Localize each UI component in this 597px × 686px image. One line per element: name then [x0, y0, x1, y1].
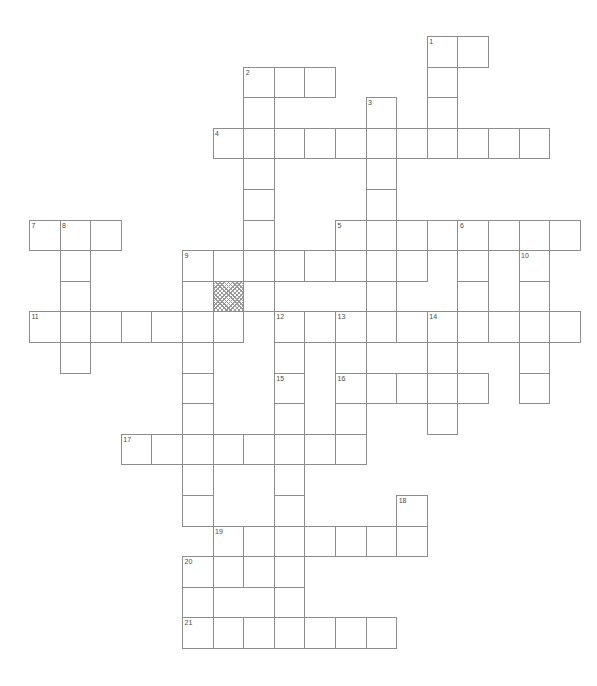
grid-cell[interactable] — [366, 373, 398, 405]
grid-cell[interactable] — [427, 128, 459, 160]
grid-cell[interactable] — [304, 526, 336, 558]
grid-cell[interactable] — [335, 617, 367, 649]
grid-cell[interactable] — [243, 526, 275, 558]
grid-cell[interactable]: 6 — [457, 220, 489, 252]
grid-cell[interactable] — [182, 464, 214, 496]
grid-cell[interactable] — [182, 373, 214, 405]
grid-cell[interactable] — [335, 128, 367, 160]
grid-cell[interactable] — [427, 373, 459, 405]
grid-cell[interactable] — [151, 434, 183, 466]
grid-cell[interactable] — [274, 617, 306, 649]
grid-cell[interactable] — [274, 434, 306, 466]
grid-cell[interactable] — [335, 342, 367, 374]
grid-cell[interactable] — [366, 526, 398, 558]
grid-cell[interactable] — [549, 311, 581, 343]
grid-cell[interactable] — [519, 128, 551, 160]
grid-cell[interactable] — [457, 250, 489, 282]
grid-cell[interactable] — [274, 128, 306, 160]
grid-cell[interactable] — [304, 128, 336, 160]
grid-cell[interactable] — [366, 617, 398, 649]
grid-cell[interactable]: 2 — [243, 67, 275, 99]
grid-cell[interactable] — [90, 311, 122, 343]
grid-cell[interactable] — [151, 311, 183, 343]
grid-cell[interactable] — [396, 220, 428, 252]
grid-cell[interactable]: 12 — [274, 311, 306, 343]
grid-cell[interactable] — [243, 250, 275, 282]
grid-cell[interactable] — [519, 342, 551, 374]
grid-cell[interactable] — [90, 220, 122, 252]
grid-cell[interactable] — [335, 403, 367, 435]
grid-cell[interactable] — [396, 373, 428, 405]
grid-cell[interactable] — [60, 311, 92, 343]
grid-cell[interactable] — [488, 128, 520, 160]
grid-cell[interactable] — [519, 220, 551, 252]
grid-cell[interactable] — [121, 311, 153, 343]
grid-cell[interactable] — [243, 97, 275, 129]
grid-cell[interactable]: 18 — [396, 495, 428, 527]
grid-cell[interactable] — [243, 281, 275, 313]
grid-cell[interactable] — [427, 342, 459, 374]
grid-cell[interactable] — [396, 128, 428, 160]
grid-cell[interactable] — [274, 403, 306, 435]
grid-cell[interactable]: 19 — [213, 526, 245, 558]
grid-cell[interactable] — [274, 342, 306, 374]
grid-cell[interactable]: 5 — [335, 220, 367, 252]
grid-cell[interactable] — [519, 281, 551, 313]
grid-cell[interactable] — [243, 556, 275, 588]
grid-cell[interactable] — [427, 97, 459, 129]
grid-cell[interactable] — [243, 128, 275, 160]
grid-cell[interactable] — [213, 556, 245, 588]
grid-cell[interactable] — [182, 342, 214, 374]
grid-cell[interactable] — [427, 403, 459, 435]
grid-cell[interactable] — [549, 220, 581, 252]
grid-cell[interactable] — [60, 342, 92, 374]
grid-cell[interactable] — [274, 250, 306, 282]
grid-cell[interactable]: 7 — [29, 220, 61, 252]
grid-cell[interactable] — [60, 250, 92, 282]
grid-cell[interactable] — [366, 311, 398, 343]
grid-cell[interactable] — [182, 403, 214, 435]
grid-cell[interactable] — [213, 250, 245, 282]
grid-cell[interactable] — [457, 36, 489, 68]
grid-cell[interactable] — [366, 189, 398, 221]
grid-cell[interactable] — [519, 311, 551, 343]
grid-cell[interactable] — [274, 587, 306, 619]
grid-cell[interactable] — [335, 434, 367, 466]
grid-cell[interactable]: 15 — [274, 373, 306, 405]
grid-cell[interactable]: 10 — [519, 250, 551, 282]
grid-cell[interactable] — [457, 373, 489, 405]
grid-cell[interactable] — [243, 617, 275, 649]
grid-cell[interactable] — [366, 281, 398, 313]
grid-cell[interactable]: 13 — [335, 311, 367, 343]
grid-cell[interactable] — [335, 250, 367, 282]
grid-cell[interactable] — [60, 281, 92, 313]
grid-cell[interactable] — [366, 220, 398, 252]
grid-cell[interactable]: 8 — [60, 220, 92, 252]
grid-cell[interactable] — [182, 311, 214, 343]
grid-cell[interactable] — [274, 526, 306, 558]
crossword-grid[interactable]: 123478569101112131415161718192021 — [0, 0, 597, 686]
grid-cell[interactable] — [366, 250, 398, 282]
grid-cell[interactable] — [396, 526, 428, 558]
grid-cell[interactable] — [366, 158, 398, 190]
grid-cell[interactable] — [304, 250, 336, 282]
grid-cell[interactable] — [427, 220, 459, 252]
grid-cell[interactable] — [182, 434, 214, 466]
grid-cell[interactable] — [457, 311, 489, 343]
grid-cell[interactable]: 14 — [427, 311, 459, 343]
grid-cell[interactable] — [396, 250, 428, 282]
grid-cell[interactable]: 11 — [29, 311, 61, 343]
grid-cell[interactable] — [427, 67, 459, 99]
grid-cell[interactable] — [182, 495, 214, 527]
grid-cell[interactable] — [488, 311, 520, 343]
grid-cell[interactable] — [213, 311, 245, 343]
grid-cell[interactable] — [519, 373, 551, 405]
grid-cell[interactable] — [457, 128, 489, 160]
grid-cell[interactable]: 16 — [335, 373, 367, 405]
grid-cell[interactable] — [274, 556, 306, 588]
grid-cell[interactable]: 4 — [213, 128, 245, 160]
grid-cell[interactable]: 21 — [182, 617, 214, 649]
grid-cell[interactable] — [396, 311, 428, 343]
grid-cell[interactable]: 20 — [182, 556, 214, 588]
grid-cell[interactable] — [304, 67, 336, 99]
